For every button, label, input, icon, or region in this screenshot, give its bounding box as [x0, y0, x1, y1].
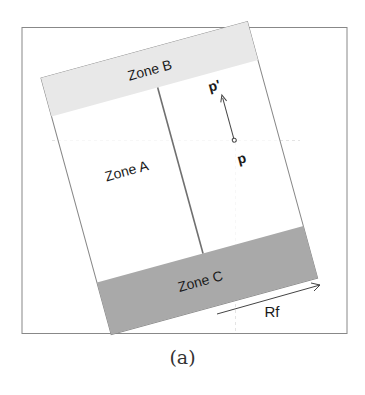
figure: Zone B Zone A Zone C p' p Rf (a) — [0, 0, 365, 395]
point-p-marker — [232, 138, 237, 143]
rotated-panel: Zone B Zone A Zone C p' — [41, 22, 318, 335]
figure-caption: (a) — [0, 346, 365, 368]
diagram-canvas: Zone B Zone A Zone C p' p Rf — [0, 0, 365, 395]
rf-label: Rf — [265, 303, 281, 320]
